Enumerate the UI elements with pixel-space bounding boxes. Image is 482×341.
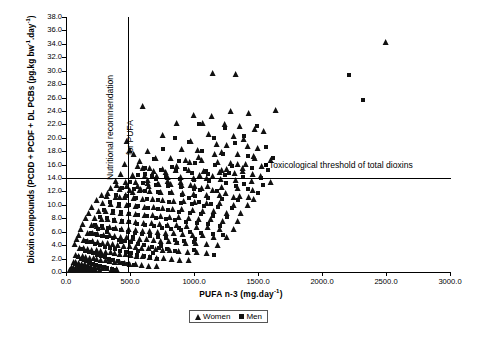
data-point-women [210, 70, 216, 76]
data-point-men [93, 269, 97, 273]
data-point-men [255, 124, 259, 128]
data-point-women [160, 132, 166, 138]
data-point-men [190, 202, 194, 206]
data-point-women [212, 151, 218, 157]
data-point-men [206, 222, 210, 226]
data-point-men [234, 184, 238, 188]
y-tick-label: 14.0 [32, 174, 62, 182]
data-point-women [191, 112, 197, 118]
data-point-men [164, 217, 168, 221]
data-point-men [173, 136, 177, 140]
data-point-women [230, 226, 236, 232]
data-point-women [145, 148, 151, 154]
data-point-men [134, 196, 138, 200]
x-tick-label: 0.0 [42, 277, 90, 286]
data-point-women [244, 143, 250, 149]
legend-label-women: Women [203, 312, 230, 321]
data-point-men [116, 259, 120, 263]
data-point-men [246, 187, 250, 191]
data-point-women [230, 133, 236, 139]
data-point-men [361, 98, 365, 102]
y-tick-label: 0.0 [32, 268, 62, 276]
data-point-men [143, 223, 147, 227]
data-point-men [151, 251, 155, 255]
data-point-men [154, 183, 158, 187]
data-point-men [136, 173, 140, 177]
data-point-men [105, 235, 109, 239]
data-point-men [156, 207, 160, 211]
data-point-men [98, 243, 102, 247]
x-tick-label: 2000.0 [298, 277, 346, 286]
data-point-men [202, 204, 206, 208]
data-point-women [203, 241, 209, 247]
data-point-men [132, 263, 136, 267]
data-point-men [173, 218, 177, 222]
data-point-men [198, 188, 202, 192]
y-tick-label: 20.0 [32, 134, 62, 142]
data-point-men [165, 247, 169, 251]
data-point-men [179, 201, 183, 205]
data-point-men [145, 214, 149, 218]
data-point-men [167, 200, 171, 204]
y-tick-label: 18.0 [32, 147, 62, 155]
data-point-men [173, 249, 177, 253]
data-point-men [179, 185, 183, 189]
data-point-men [141, 181, 145, 185]
data-point-men [192, 248, 196, 252]
data-point-men [230, 164, 234, 168]
y-tick-label: 38.0 [32, 13, 62, 21]
x-tick-label: 1000.0 [170, 277, 218, 286]
data-point-women [160, 205, 166, 211]
annotation-nutritional-recommendation: Nutritional recommendation [105, 75, 115, 180]
data-point-men [129, 251, 133, 255]
data-point-women [214, 141, 220, 147]
data-point-men [216, 205, 220, 209]
data-point-men [129, 240, 133, 244]
data-point-men [177, 159, 181, 163]
data-point-men [148, 255, 152, 259]
x-axis-title-text: PUFA n-3 (mg.day [199, 289, 274, 299]
data-point-women [93, 197, 99, 203]
x-tick-label: 1500.0 [234, 277, 282, 286]
data-point-men [224, 181, 228, 185]
data-point-men [135, 222, 139, 226]
legend-label-men: Men [246, 312, 262, 321]
triangle-marker-icon [195, 314, 201, 320]
data-point-men [156, 198, 160, 202]
data-point-women [153, 263, 159, 269]
y-tick-label: 8.0 [32, 214, 62, 222]
data-point-women [72, 241, 78, 247]
data-point-men [212, 136, 216, 140]
data-point-men [140, 232, 144, 236]
data-point-men [100, 224, 104, 228]
data-point-men [105, 230, 109, 234]
data-point-men [103, 245, 107, 249]
data-point-men [177, 226, 181, 230]
data-point-women [146, 263, 152, 269]
data-point-men [120, 219, 124, 223]
data-point-men [174, 169, 178, 173]
data-point-women [121, 161, 127, 167]
data-point-men [107, 257, 111, 261]
data-point-women [139, 262, 145, 268]
data-point-men [166, 208, 170, 212]
data-point-women [261, 128, 267, 134]
data-point-men [112, 218, 116, 222]
data-point-women [168, 155, 174, 161]
data-point-men [142, 243, 146, 247]
data-point-men [221, 152, 225, 156]
data-point-women [184, 223, 190, 229]
data-point-women [244, 202, 250, 208]
data-point-men [89, 231, 93, 235]
data-point-men [199, 212, 203, 216]
x-tick-label: 500.0 [106, 277, 154, 286]
y-tick-label: 6.0 [32, 228, 62, 236]
data-point-men [207, 179, 211, 183]
data-point-men [146, 206, 150, 210]
data-point-men [175, 241, 179, 245]
y-tick-label: 28.0 [32, 80, 62, 88]
data-point-men [136, 249, 140, 253]
data-point-men [193, 161, 197, 165]
data-point-men [152, 224, 156, 228]
data-point-women [246, 110, 252, 116]
